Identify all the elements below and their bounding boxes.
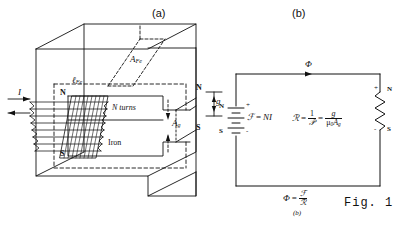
flux-path-dashed [54,84,186,168]
source-plus-label: + [246,102,250,109]
coil-north-pole-label: N [60,89,66,97]
panel-b-sublabel: (b) [293,210,301,217]
turns-label: N turns [112,104,136,112]
source-north-label: N [219,103,224,110]
reluctance-frac-permeance: 1 𝒫 [308,110,316,127]
mmf-equation: ℱ = NI [247,113,272,122]
flux-arrow [305,72,312,77]
gap-south-pole-label: S [196,124,200,132]
core-area-label: AFe [130,55,142,64]
load-minus-label: - [374,126,376,133]
reluctance-symbol [375,92,385,130]
reluctance-equation: ℛ = 1 𝒫 = g μ0Ag [292,110,342,128]
core-material-label: Iron [108,139,121,147]
load-plus-label: + [374,85,378,92]
mmf-source-symbol [228,108,244,133]
gap-area-label: Ag [172,119,181,128]
flux-law-fraction: ℱ ℛ [299,190,307,207]
coil-south-pole-label: S [60,150,64,158]
load-north-label: N [387,86,392,93]
gap-north-pole-label: N [196,84,202,92]
panel-a-title: (a) [152,8,165,19]
circuit-loop [236,74,380,186]
figure-caption: Fig. 1 [344,197,393,209]
flux-label-top: Φ [305,60,312,69]
panel-b-title: (b) [292,8,305,19]
flux-law-equation: Φ = ℱ ℛ [283,190,307,207]
current-label: I [18,88,21,97]
load-south-label: S [387,126,391,133]
path-length-label: ℓFe [72,76,82,85]
reluctance-frac-gap: g μ0Ag [325,110,342,128]
current-leads [8,99,30,113]
source-south-label: S [219,128,223,135]
source-minus-label: - [246,128,248,135]
figure-canvas: (a) (b) I N turns Iron AFe ℓFe Ag g N S … [0,0,402,228]
coil-turns [30,102,108,151]
